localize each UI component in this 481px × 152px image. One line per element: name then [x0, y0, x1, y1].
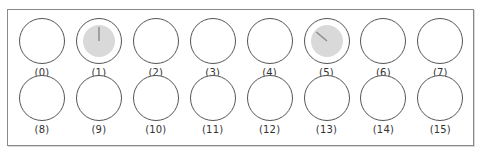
- channel-knob-2[interactable]: (2): [128, 17, 184, 81]
- channel-knob-14[interactable]: (14): [355, 74, 411, 138]
- knob-dial-icon[interactable]: [18, 74, 66, 122]
- knob-dial-icon[interactable]: [416, 74, 464, 122]
- channel-label: (12): [242, 124, 298, 135]
- channel-knob-15[interactable]: (15): [412, 74, 468, 138]
- knob-dial-icon[interactable]: [18, 17, 66, 65]
- knob-dial-icon[interactable]: [132, 74, 180, 122]
- knob-dial-icon[interactable]: [303, 74, 351, 122]
- channel-knob-4[interactable]: (4): [242, 17, 298, 81]
- channel-label: (8): [14, 124, 70, 135]
- knob-dial-icon[interactable]: [132, 17, 180, 65]
- knob-dial-icon[interactable]: [359, 17, 407, 65]
- channel-knob-7[interactable]: (7): [412, 17, 468, 81]
- channel-label: (9): [71, 124, 127, 135]
- channel-knob-12[interactable]: (12): [242, 74, 298, 138]
- knob-dial-icon[interactable]: [246, 74, 294, 122]
- channel-label: (14): [355, 124, 411, 135]
- channel-knob-1[interactable]: (1): [71, 17, 127, 81]
- channel-knob-11[interactable]: (11): [185, 74, 241, 138]
- channel-knob-10[interactable]: (10): [128, 74, 184, 138]
- channel-label: (10): [128, 124, 184, 135]
- channel-knob-9[interactable]: (9): [71, 74, 127, 138]
- channel-knob-0[interactable]: (0): [14, 17, 70, 81]
- knob-dial-icon[interactable]: [75, 74, 123, 122]
- channel-label: (11): [185, 124, 241, 135]
- knob-dial-icon[interactable]: [359, 74, 407, 122]
- channel-knob-13[interactable]: (13): [299, 74, 355, 138]
- channel-knob-5[interactable]: (5): [299, 17, 355, 81]
- channel-label: (15): [412, 124, 468, 135]
- knob-dial-icon[interactable]: [189, 17, 237, 65]
- channel-panel: (0)(1)(2)(3)(4)(5)(6)(7)(8)(9)(10)(11)(1…: [7, 9, 474, 146]
- channel-label: (13): [299, 124, 355, 135]
- channel-knob-8[interactable]: (8): [14, 74, 70, 138]
- channel-knob-6[interactable]: (6): [355, 17, 411, 81]
- knob-dial-icon[interactable]: [189, 74, 237, 122]
- channel-knob-3[interactable]: (3): [185, 17, 241, 81]
- knob-dial-icon[interactable]: [75, 17, 123, 65]
- knob-dial-icon[interactable]: [303, 17, 351, 65]
- knob-dial-icon[interactable]: [416, 17, 464, 65]
- knob-dial-icon[interactable]: [246, 17, 294, 65]
